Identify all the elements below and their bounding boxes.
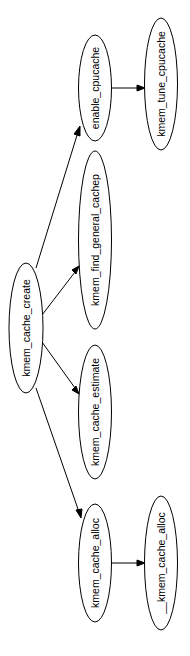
arrowhead-icon <box>76 509 82 518</box>
edge-create-to-find-general-cachep <box>42 266 79 315</box>
edge-create-to-cache-alloc <box>36 388 82 518</box>
edge-enable-cpucache-to-tune-cpucache <box>111 85 145 91</box>
node-kmem-cache-alloc[interactable]: kmem_cache_alloc <box>79 504 112 622</box>
edge-create-to-enable-cpucache <box>36 126 80 268</box>
node-label: __kmem_cache_alloc <box>155 512 167 615</box>
node-kmem-cache-create[interactable]: kmem_cache_create <box>9 263 43 393</box>
edge-cache-alloc-to-underscore-cache-alloc <box>111 560 145 566</box>
node-label: enable_cpucache <box>89 47 101 129</box>
edge-create-to-cache-estimate <box>42 342 79 394</box>
node-underscore-kmem-cache-alloc[interactable]: __kmem_cache_alloc <box>145 496 178 630</box>
node-label: kmem_cache_alloc <box>89 518 101 608</box>
node-kmem-find-general-cachep[interactable]: kmem_find_general_cachep <box>79 151 112 329</box>
node-kmem-tune-cpucache[interactable]: kmem_tune_cpucache <box>145 18 178 150</box>
node-label: kmem_cache_create <box>20 279 32 377</box>
node-label: kmem_tune_cpucache <box>155 31 167 137</box>
arrowhead-icon <box>137 85 145 91</box>
call-graph-diagram: kmem_cache_create enable_cpucache kmem_f… <box>0 0 190 656</box>
arrowhead-icon <box>137 560 145 566</box>
arrowhead-icon <box>72 266 79 274</box>
arrowhead-icon <box>74 126 80 136</box>
node-label: kmem_find_general_cachep <box>89 174 101 306</box>
node-kmem-cache-estimate[interactable]: kmem_cache_estimate <box>79 345 112 479</box>
node-label: kmem_cache_estimate <box>89 358 101 466</box>
node-enable-cpucache[interactable]: enable_cpucache <box>79 35 112 141</box>
arrowhead-icon <box>72 386 79 394</box>
